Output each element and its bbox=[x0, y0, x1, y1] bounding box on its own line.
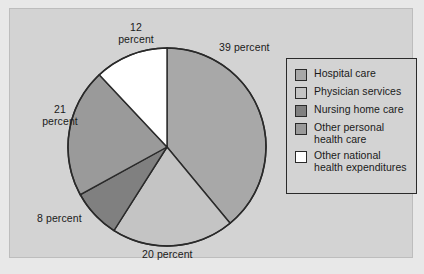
legend-item-label: Nursing home care bbox=[314, 104, 404, 116]
legend-item-label: Other national health expenditures bbox=[314, 150, 407, 173]
legend-swatch-icon bbox=[295, 87, 307, 99]
legend-swatch-icon bbox=[295, 123, 307, 135]
legend-item-label: Other personal health care bbox=[314, 122, 384, 145]
slice-label-nursing-home-care: 8 percent bbox=[37, 212, 82, 224]
pie-slice-group bbox=[68, 48, 266, 246]
slice-label-hospital-care: 39 percent bbox=[219, 41, 270, 53]
chart-legend: Hospital carePhysician servicesNursing h… bbox=[286, 58, 417, 194]
legend-item-label: Hospital care bbox=[314, 68, 376, 80]
legend-item[interactable]: Physician services bbox=[295, 86, 410, 99]
legend-swatch-icon bbox=[295, 105, 307, 117]
legend-item[interactable]: Other personal health care bbox=[295, 122, 410, 145]
chart-frame: 39 percent 12 percent 21 percent 8 perce… bbox=[9, 8, 413, 258]
slice-label-other-national-health-expenditures: 12 percent bbox=[110, 21, 162, 45]
slice-label-other-personal-health-care: 21 percent bbox=[32, 103, 88, 127]
pie-chart bbox=[67, 47, 267, 247]
legend-item[interactable]: Other national health expenditures bbox=[295, 150, 410, 173]
legend-item[interactable]: Hospital care bbox=[295, 68, 410, 81]
legend-item[interactable]: Nursing home care bbox=[295, 104, 410, 117]
chart-screenshot: 39 percent 12 percent 21 percent 8 perce… bbox=[0, 0, 424, 274]
legend-swatch-icon bbox=[295, 69, 307, 81]
pie-svg bbox=[67, 47, 267, 247]
legend-item-label: Physician services bbox=[314, 86, 401, 98]
legend-swatch-icon bbox=[295, 151, 307, 163]
slice-label-physician-services: 20 percent bbox=[142, 248, 193, 260]
